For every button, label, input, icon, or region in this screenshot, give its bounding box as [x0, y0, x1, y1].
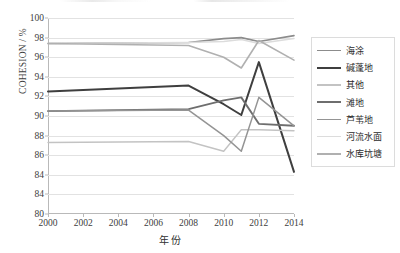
x-tick-mark — [189, 214, 190, 217]
x-tick-mark — [118, 214, 119, 217]
legend-label: 海涂 — [346, 44, 364, 57]
x-tick-mark — [224, 214, 225, 217]
legend-color-swatch — [317, 136, 341, 138]
legend-color-swatch — [317, 67, 341, 69]
x-tick-mark — [153, 214, 154, 217]
series-line — [48, 97, 294, 151]
series-line — [48, 130, 294, 152]
x-tick-mark — [83, 214, 84, 217]
legend: 海涂碱蓬地其他滩地芦苇地河流水面水库坑塘 — [311, 37, 395, 167]
legend-row[interactable]: 滩地 — [314, 94, 392, 111]
y-axis-title: COHESION / % — [18, 0, 28, 136]
legend-label: 碱蓬地 — [346, 61, 373, 74]
legend-color-swatch — [317, 84, 341, 86]
legend-row[interactable]: 其他 — [314, 76, 392, 93]
x-tick-mark — [294, 214, 295, 217]
legend-row[interactable]: 水库坑塘 — [314, 145, 392, 162]
cohesion-line-chart-figure: COHESION / % 10098969492908886848480 200… — [0, 0, 400, 253]
legend-color-swatch — [317, 101, 341, 103]
y-tick-label: 86 — [35, 150, 45, 160]
x-tick-label: 2006 — [144, 218, 163, 228]
x-tick-label: 2000 — [39, 218, 58, 228]
legend-label: 河流水面 — [346, 130, 382, 143]
x-tick-label: 2002 — [74, 218, 93, 228]
x-tick-label: 2014 — [285, 218, 304, 228]
data-series-layer — [48, 18, 294, 214]
plot-area: 10098969492908886848480 2000200220042006… — [48, 18, 294, 214]
y-tick-label: 90 — [35, 111, 45, 121]
x-tick-label: 2012 — [249, 218, 268, 228]
x-axis-title: 年份 — [48, 232, 294, 247]
legend-row[interactable]: 芦苇地 — [314, 111, 392, 128]
x-tick-mark — [259, 214, 260, 217]
series-line — [48, 62, 294, 172]
legend-row[interactable]: 海涂 — [314, 42, 392, 59]
y-tick-label: 92 — [35, 91, 45, 101]
legend-label: 滩地 — [346, 96, 364, 109]
y-tick-label: 100 — [30, 13, 44, 23]
y-tick-label: 94 — [35, 72, 45, 82]
series-line — [48, 41, 294, 68]
x-tick-label: 2004 — [109, 218, 128, 228]
legend-row[interactable]: 碱蓬地 — [314, 59, 392, 76]
legend-row[interactable]: 河流水面 — [314, 128, 392, 145]
x-tick-mark — [48, 214, 49, 217]
x-tick-label: 2010 — [214, 218, 233, 228]
cropped-caption-remnant — [60, 0, 290, 2]
y-tick-label: 96 — [35, 52, 45, 62]
legend-label: 水库坑塘 — [346, 147, 382, 160]
legend-label: 其他 — [346, 78, 364, 91]
y-tick-label: 84 — [35, 170, 45, 180]
legend-color-swatch — [317, 50, 341, 52]
legend-color-swatch — [317, 119, 341, 121]
legend-color-swatch — [317, 153, 341, 155]
x-tick-label: 2008 — [179, 218, 198, 228]
y-tick-label: 98 — [35, 33, 45, 43]
y-tick-label: 84 — [35, 189, 45, 199]
legend-label: 芦苇地 — [346, 113, 373, 126]
y-tick-label: 88 — [35, 131, 45, 141]
